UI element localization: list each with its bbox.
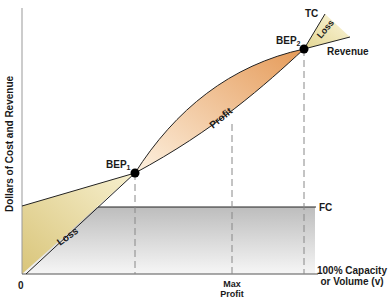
x-axis-label-line2: or Volume (v) (320, 276, 383, 287)
x-axis-label-line1: 100% Capacity (317, 265, 387, 276)
tc-label: TC (305, 8, 318, 19)
origin-label: 0 (18, 280, 24, 291)
break-even-diagram: Dollars of Cost and Revenue 0 BEP1 BEP2 … (0, 0, 390, 303)
fc-label: FC (319, 202, 332, 213)
max-profit-label-line2: Profit (220, 289, 244, 299)
bep1-label: BEP1 (106, 159, 131, 171)
bep1-point (131, 169, 140, 178)
bep2-label: BEP2 (276, 35, 301, 47)
y-axis-label: Dollars of Cost and Revenue (4, 75, 15, 212)
revenue-label: Revenue (327, 46, 369, 57)
max-profit-label-line1: Max (223, 279, 241, 289)
bep2-point (300, 45, 309, 54)
